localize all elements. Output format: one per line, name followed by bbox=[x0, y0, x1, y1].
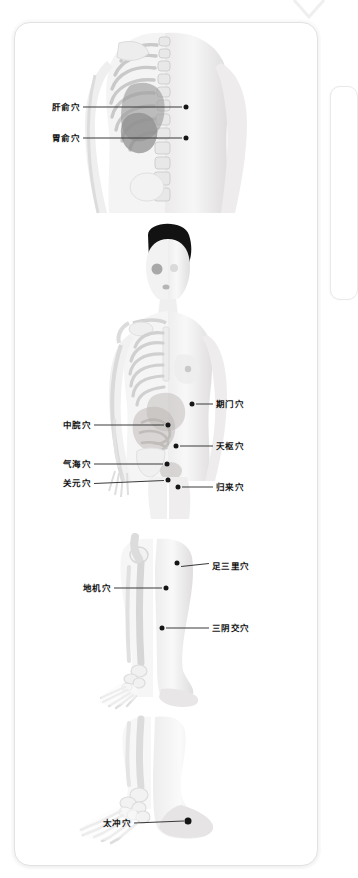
illustration-card[interactable] bbox=[14, 22, 318, 866]
card-inner bbox=[15, 23, 317, 865]
foot-view-panel bbox=[15, 713, 317, 863]
front-view-panel bbox=[15, 219, 317, 519]
chevron-down-icon bbox=[292, 0, 326, 22]
adjacent-card-edge bbox=[330, 86, 358, 300]
back-view-panel bbox=[15, 27, 317, 217]
leg-view-panel bbox=[15, 523, 317, 711]
